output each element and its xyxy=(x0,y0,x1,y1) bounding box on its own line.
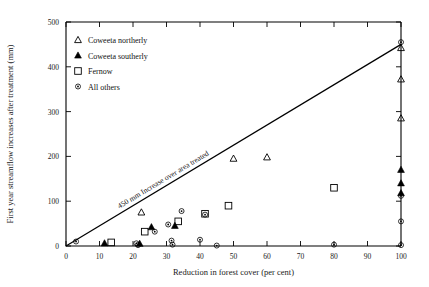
chart-canvas: 01020304050607080901000100200300400500Re… xyxy=(0,0,429,287)
legend-label-0: Coweeta northerly xyxy=(88,36,147,45)
legend-label-1: Coweeta southerly xyxy=(88,52,148,61)
legend-label-3: All others xyxy=(88,83,120,92)
data-point-s3-11-center xyxy=(333,244,335,246)
x-tick-label: 80 xyxy=(330,252,338,261)
y-tick-label: 400 xyxy=(48,63,60,72)
x-tick-label: 50 xyxy=(230,252,238,261)
data-point-s1-5 xyxy=(398,180,405,186)
x-tick-label: 20 xyxy=(129,252,137,261)
x-tick-label: 90 xyxy=(364,252,372,261)
x-tick-label: 40 xyxy=(196,252,204,261)
y-axis-title: First year streamflow increases after tr… xyxy=(5,44,15,223)
data-point-s0-0 xyxy=(138,209,145,215)
data-point-s3-2-center xyxy=(137,244,139,246)
data-point-s3-6-center xyxy=(172,244,174,246)
reference-line-450mm xyxy=(66,44,401,246)
data-point-s3-4-center xyxy=(167,224,169,226)
data-point-s2-4 xyxy=(225,202,232,209)
data-point-s1-2 xyxy=(148,224,155,230)
data-point-s2-5 xyxy=(331,184,338,191)
data-point-s0-2 xyxy=(264,154,271,160)
y-tick-label: 500 xyxy=(48,18,60,27)
data-point-s3-10-center xyxy=(216,245,218,247)
legend-marker-3-center xyxy=(77,86,79,88)
data-point-s1-0 xyxy=(101,240,108,246)
x-tick-label: 100 xyxy=(395,252,407,261)
data-point-s1-4 xyxy=(398,166,405,172)
data-point-s2-1 xyxy=(141,228,148,235)
data-point-s3-12-center xyxy=(400,41,402,43)
x-tick-label: 0 xyxy=(64,252,68,261)
data-point-s3-5-center xyxy=(171,240,173,242)
y-tick-label: 0 xyxy=(55,242,59,251)
data-point-s3-8-center xyxy=(199,239,201,241)
y-tick-label: 200 xyxy=(48,152,60,161)
scatter-plot-figure: 01020304050607080901000100200300400500Re… xyxy=(0,0,429,287)
x-tick-label: 10 xyxy=(96,252,104,261)
x-tick-label: 70 xyxy=(297,252,305,261)
legend-marker-0 xyxy=(75,36,82,42)
data-point-s0-1 xyxy=(230,155,237,161)
data-point-s3-7-center xyxy=(181,210,183,212)
legend-marker-2 xyxy=(75,68,82,75)
data-point-s3-0-center xyxy=(75,241,77,243)
data-point-s3-3-center xyxy=(154,231,156,233)
data-point-s3-15-center xyxy=(400,244,402,246)
x-tick-label: 60 xyxy=(263,252,271,261)
y-tick-label: 300 xyxy=(48,108,60,117)
legend-label-2: Fernow xyxy=(88,67,113,76)
reference-line-label: 450 mm Increase over area treated xyxy=(116,149,211,211)
legend-marker-1 xyxy=(75,52,82,58)
data-point-s3-9-center xyxy=(204,214,206,216)
data-point-s2-0 xyxy=(108,239,115,246)
x-axis-title: Reduction in forest cover (per cent) xyxy=(173,267,294,277)
y-tick-label: 100 xyxy=(48,197,60,206)
x-tick-label: 30 xyxy=(163,252,171,261)
data-point-s3-13-center xyxy=(400,195,402,197)
data-point-s3-14-center xyxy=(400,220,402,222)
